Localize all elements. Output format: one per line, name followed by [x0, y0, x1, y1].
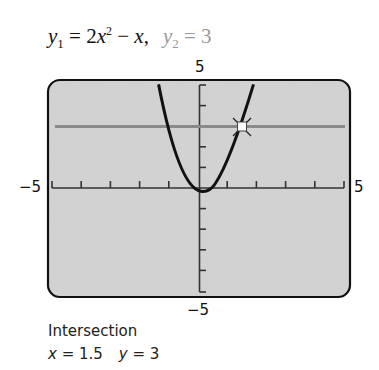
result-x-label: x — [48, 345, 57, 363]
xmin-label: −5 — [19, 178, 41, 196]
ymax-label: 5 — [195, 58, 205, 76]
result-values: x = 1.5y = 3 — [48, 345, 159, 363]
result-x-value: = 1.5 — [57, 345, 103, 363]
xmax-label: 5 — [354, 178, 364, 196]
result-title: Intersection — [48, 322, 137, 340]
ymin-label: −5 — [187, 301, 209, 319]
result-y-value: = 3 — [128, 345, 160, 363]
result-y-label: y — [119, 345, 128, 363]
